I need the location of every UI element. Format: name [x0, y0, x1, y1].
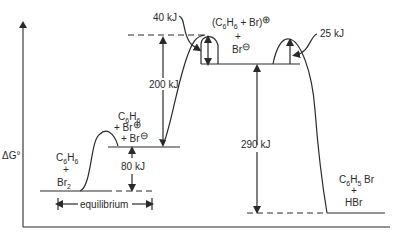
svg-text:+: + — [351, 185, 357, 196]
barrier-40-label: 40 kJ — [153, 12, 177, 23]
svg-text:Br2: Br2 — [57, 177, 71, 190]
svg-text:+: + — [235, 31, 241, 42]
svg-text:+: + — [63, 164, 69, 175]
svg-text:+ Br⊕: + Br⊕ — [114, 119, 141, 133]
drop-290-label: 290 kJ — [241, 139, 270, 150]
intermediate2-label: (C6H6 + Br)⊕ + Br⊖ — [212, 14, 270, 55]
products-label: C6H5 Br + HBr — [339, 174, 375, 208]
energy-diagram: ΔG° C6H6 + Br2 C6H6 + Br⊕ + Br⊖ 80 kJ eq… — [0, 0, 403, 236]
svg-text:+ Br⊖: + Br⊖ — [121, 130, 148, 144]
svg-text:C6H5 Br: C6H5 Br — [339, 174, 375, 187]
svg-text:(C6H6 + Br)⊕: (C6H6 + Br)⊕ — [212, 14, 270, 30]
barrier-25-leader — [296, 34, 317, 55]
rise-200-label: 200 kJ — [149, 79, 178, 90]
barrier-25-label: 25 kJ — [320, 28, 344, 39]
svg-text:equilibrium: equilibrium — [80, 199, 128, 210]
intermediate1-label: C6H6 + Br⊕ + Br⊖ — [114, 111, 148, 144]
y-axis-arrow-icon — [19, 21, 27, 28]
reactants-label: C6H6 + Br2 — [56, 152, 78, 190]
y-axis-label: ΔG° — [2, 150, 20, 161]
gap-80-label: 80 kJ — [121, 161, 145, 172]
svg-text:Br⊖: Br⊖ — [232, 41, 250, 55]
reaction-curve-1 — [80, 131, 118, 191]
svg-text:HBr: HBr — [345, 197, 363, 208]
ts-hump-1 — [201, 37, 218, 64]
equilibrium-bracket: equilibrium — [58, 198, 152, 210]
barrier-40-leader — [179, 16, 198, 49]
ts-hump-2 — [273, 39, 327, 213]
curve-2-arrow-icon — [159, 139, 166, 147]
